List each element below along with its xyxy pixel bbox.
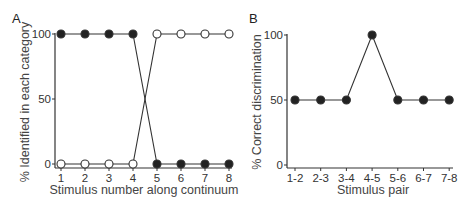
data-point-filled: [445, 96, 453, 104]
x-tick-label: 6: [178, 172, 184, 184]
data-point-open: [129, 160, 137, 168]
x-tick-label: 5-6: [389, 172, 406, 184]
x-tick-label: 2-3: [312, 172, 329, 184]
data-point-open: [57, 160, 65, 168]
data-point-open: [81, 160, 89, 168]
data-point-filled: [394, 96, 402, 104]
x-tick-label: 5: [154, 172, 160, 184]
data-point-open: [177, 30, 185, 38]
x-tick-label: 1-2: [287, 172, 304, 184]
data-point-open: [201, 30, 209, 38]
panel-a-x-axis-label: Stimulus number along continuum: [50, 183, 239, 197]
data-point-filled: [177, 160, 185, 168]
panel-a-y-axis-label: % Identified in each category: [18, 21, 32, 182]
series-line-1: [295, 35, 449, 100]
data-point-open: [225, 30, 233, 38]
y-tick-label: 100: [264, 29, 283, 41]
x-tick-label: 6-7: [415, 172, 432, 184]
data-point-filled: [317, 96, 325, 104]
y-tick-label: 50: [270, 94, 283, 106]
data-point-filled: [291, 96, 299, 104]
data-point-filled: [57, 30, 65, 38]
data-point-open: [153, 30, 161, 38]
data-point-filled: [105, 30, 113, 38]
x-tick-label: 3-4: [338, 172, 355, 184]
y-tick-label: 50: [38, 93, 51, 105]
figure: A % Identified in each category Stimulus…: [0, 0, 472, 207]
x-tick-label: 4: [130, 172, 137, 184]
panel-b-label: B: [249, 11, 258, 26]
x-tick-label: 7: [202, 172, 208, 184]
x-tick-label: 2: [82, 172, 88, 184]
y-tick-label: 0: [45, 158, 51, 170]
x-tick-label: 1: [58, 172, 64, 184]
data-point-filled: [153, 160, 161, 168]
panel-b: B % Correct discrimination Stimulus pair…: [249, 11, 458, 197]
x-tick-label: 4-5: [364, 172, 381, 184]
panel-a: A % Identified in each category Stimulus…: [12, 11, 239, 197]
x-tick-label: 7-8: [441, 172, 458, 184]
data-point-filled: [225, 160, 233, 168]
y-tick-label: 0: [277, 159, 283, 171]
data-point-filled: [129, 30, 137, 38]
panel-b-x-axis-label: Stimulus pair: [337, 183, 409, 197]
data-point-filled: [368, 31, 376, 39]
data-point-filled: [201, 160, 209, 168]
series-line-2: [61, 34, 229, 164]
data-point-filled: [342, 96, 350, 104]
panel-b-y-axis-label: % Correct discrimination: [250, 34, 264, 170]
x-tick-label: 3: [106, 172, 112, 184]
data-point-open: [105, 160, 113, 168]
data-point-filled: [81, 30, 89, 38]
x-tick-label: 8: [226, 172, 232, 184]
y-tick-label: 100: [32, 28, 51, 40]
data-point-filled: [420, 96, 428, 104]
